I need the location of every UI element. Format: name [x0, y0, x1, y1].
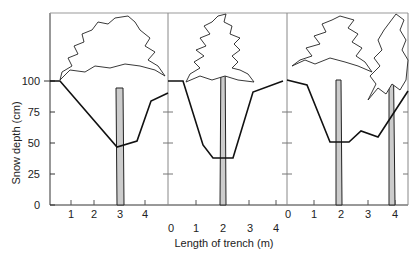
y-tick-0: 0 [34, 199, 40, 211]
tree-crown-icon [368, 14, 408, 100]
x-tick-labels-panel-3: 0 1 2 3 4 [285, 208, 398, 220]
snow-profile-panel-1 [50, 81, 168, 147]
tree-crown-icon [292, 16, 372, 72]
x-tick-labels-panel-2: 0 1 2 3 4 [168, 222, 279, 234]
svg-text:3: 3 [365, 208, 371, 220]
svg-text:3: 3 [247, 222, 253, 234]
y-tick-25: 25 [28, 168, 40, 180]
y-tick-labels: 0 25 50 75 100 [22, 75, 40, 211]
y-tick-100: 100 [22, 75, 40, 87]
svg-text:3: 3 [117, 208, 123, 220]
tree-crown-icon [186, 14, 254, 82]
y-axis-title: Snow depth (cm) [10, 101, 22, 184]
svg-text:0: 0 [168, 222, 174, 234]
svg-text:2: 2 [220, 222, 226, 234]
svg-text:2: 2 [338, 208, 344, 220]
x-axis-title: Length of trench (m) [174, 237, 273, 249]
y-tick-75: 75 [28, 106, 40, 118]
tree-crown-icon [60, 16, 165, 80]
snow-depth-profiles [50, 80, 408, 158]
svg-text:4: 4 [392, 208, 398, 220]
tree-crowns [60, 14, 408, 100]
x-tick-labels-panel-1: 1 2 3 4 [68, 208, 148, 220]
svg-text:1: 1 [68, 208, 74, 220]
y-tick-50: 50 [28, 137, 40, 149]
svg-text:4: 4 [142, 208, 148, 220]
svg-text:2: 2 [91, 208, 97, 220]
svg-text:1: 1 [193, 222, 199, 234]
svg-text:0: 0 [285, 208, 291, 220]
svg-text:4: 4 [273, 222, 279, 234]
svg-text:1: 1 [311, 208, 317, 220]
snow-depth-figure: 0 25 50 75 100 Snow depth (cm) 1 2 3 4 0… [0, 0, 418, 257]
